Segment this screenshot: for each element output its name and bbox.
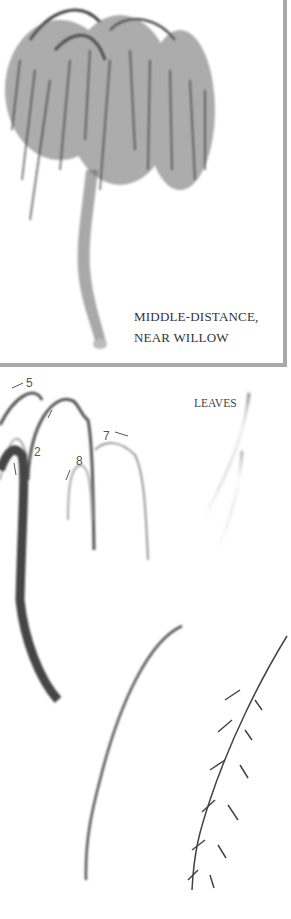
willow-painting bbox=[0, 0, 291, 919]
stroke-number-7: 7 bbox=[103, 429, 110, 443]
stroke-number-2: 2 bbox=[34, 445, 41, 459]
near-willow-tree bbox=[5, 10, 215, 349]
stroke-number-5: 5 bbox=[26, 376, 33, 390]
caption-line-2: NEAR WILLOW bbox=[134, 327, 259, 348]
willow-branch-right bbox=[188, 636, 287, 890]
stroke-diagram bbox=[0, 393, 148, 700]
leaves-strokes bbox=[203, 392, 250, 565]
leaves-label: LEAVES bbox=[194, 397, 237, 409]
panel-caption: MIDDLE-DISTANCE, NEAR WILLOW bbox=[134, 306, 259, 348]
stroke-number-8: 8 bbox=[76, 454, 83, 468]
willow-branch-left bbox=[86, 626, 182, 880]
caption-line-1: MIDDLE-DISTANCE, bbox=[134, 306, 259, 327]
